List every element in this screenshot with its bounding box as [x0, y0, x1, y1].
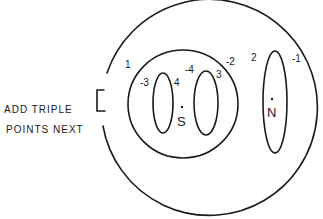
- label-mid-oval-right: 3: [216, 69, 222, 80]
- label-outer-region: 1: [125, 59, 131, 70]
- label-tall-oval-left: 2: [251, 52, 257, 63]
- note-line-1: ADD TRIPLE: [4, 104, 73, 115]
- label-left-oval-left: -3: [140, 77, 149, 88]
- middle-oval: [194, 71, 218, 135]
- label-inner-region-edge: -2: [226, 56, 235, 67]
- outer-circle: [103, 0, 317, 215]
- point-n-dot: [271, 98, 273, 100]
- note-line-2: POINTS NEXT: [6, 124, 84, 135]
- point-s-label: S: [177, 114, 186, 129]
- label-tall-oval-right: -1: [292, 53, 301, 64]
- inner-region: [128, 50, 238, 158]
- tall-oval: [263, 51, 287, 153]
- label-mid-oval-left: -4: [185, 64, 194, 75]
- bracket: [97, 90, 105, 111]
- diagram-canvas: ADD TRIPLE POINTS NEXT 1 -3 4 -4 3 -2 2 …: [0, 0, 323, 219]
- point-n-label: N: [267, 105, 276, 120]
- left-oval: [153, 73, 173, 133]
- label-left-oval-right: 4: [174, 77, 180, 88]
- point-s-dot: [181, 106, 183, 108]
